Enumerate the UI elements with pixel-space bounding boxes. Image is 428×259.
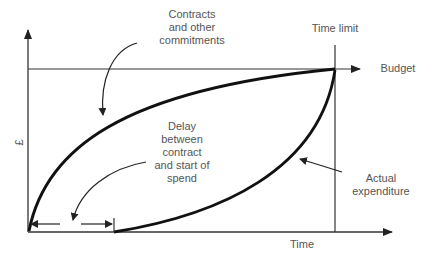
commitments-pointer xyxy=(103,43,137,115)
y-axis-label: £ xyxy=(13,137,26,149)
actual-pointer xyxy=(300,159,342,172)
x-axis-label: Time xyxy=(282,238,322,251)
budget-commitment-diagram: Contracts and other commitments Time lim… xyxy=(0,0,428,259)
delay-label: Delay between contract and start of spen… xyxy=(146,120,218,185)
actual-expenditure-label: Actual expenditure xyxy=(350,172,412,198)
commitments-label: Contracts and other commitments xyxy=(140,8,244,47)
delay-pointer xyxy=(73,162,146,220)
budget-label: Budget xyxy=(376,62,420,75)
time-limit-label: Time limit xyxy=(305,22,365,35)
